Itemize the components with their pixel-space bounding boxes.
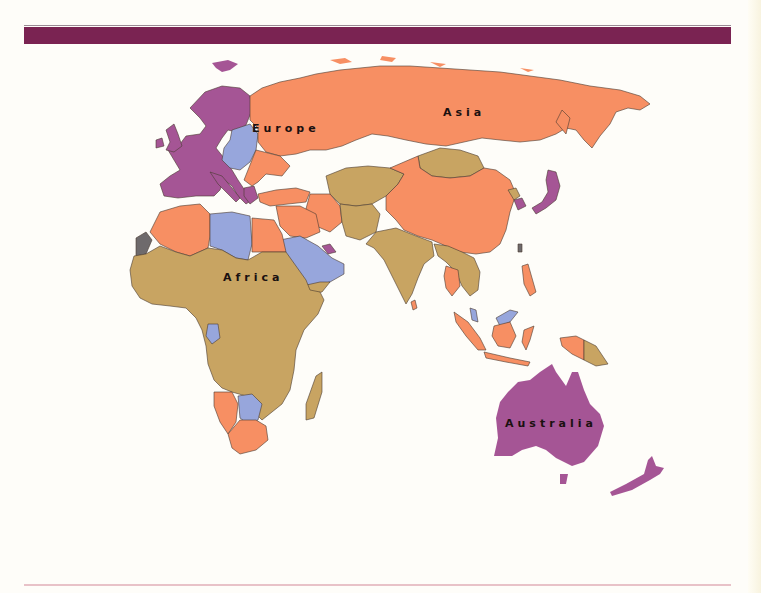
region-sri-lanka xyxy=(411,300,417,310)
region-papua-new-guinea xyxy=(584,340,608,366)
footer-rule xyxy=(24,584,731,586)
region-madagascar xyxy=(306,372,322,420)
region-java xyxy=(484,352,530,366)
region-thailand xyxy=(444,266,460,296)
label-australia: Australia xyxy=(505,417,597,430)
world-map xyxy=(0,0,761,593)
region-taiwan xyxy=(518,244,522,252)
region-turkey xyxy=(258,188,310,206)
region-svalbard xyxy=(212,60,238,72)
region-new-zealand xyxy=(610,456,664,496)
label-asia: Asia xyxy=(443,106,485,119)
region-tasmania xyxy=(560,474,568,484)
region-british-isles xyxy=(156,124,182,152)
region-sumatra xyxy=(454,312,486,350)
region-philippines xyxy=(522,264,536,296)
region-borneo xyxy=(492,322,516,348)
label-africa: Africa xyxy=(223,271,283,284)
region-japan xyxy=(532,170,560,214)
region-india xyxy=(366,228,434,304)
label-europe: Europe xyxy=(252,122,320,135)
region-australia xyxy=(494,364,604,466)
region-sulawesi xyxy=(522,326,534,350)
region-south-korea xyxy=(514,198,526,210)
region-new-guinea-west xyxy=(560,336,584,360)
